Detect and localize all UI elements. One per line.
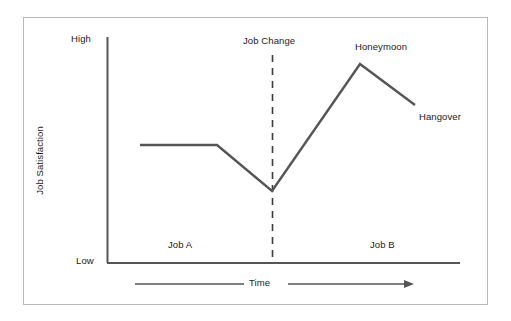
- y-axis-low-tick-label: Low: [76, 255, 94, 266]
- job-satisfaction-figure: High Low Job Satisfaction Job Change Hon…: [0, 0, 511, 321]
- y-axis-high-tick-label: High: [71, 33, 91, 44]
- job-a-region-label: Job A: [168, 239, 192, 250]
- job-change-label: Job Change: [243, 35, 295, 46]
- job-b-region-label: Job B: [370, 239, 395, 250]
- chart-canvas: [0, 0, 511, 321]
- honeymoon-label: Honeymoon: [355, 41, 407, 52]
- x-axis-title: Time: [249, 277, 270, 288]
- y-axis-title: Job Satisfaction: [34, 91, 45, 231]
- time-arrowhead-icon: [404, 280, 414, 288]
- hangover-label: Hangover: [419, 111, 461, 122]
- satisfaction-line: [140, 64, 415, 191]
